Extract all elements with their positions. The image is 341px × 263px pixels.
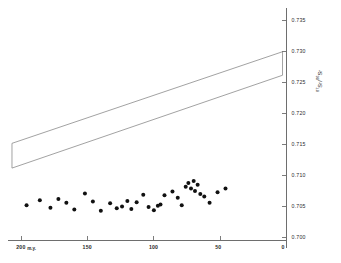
data-point [72,208,76,212]
data-point [125,199,129,203]
data-point [25,203,29,207]
y-axis-title-numerator-mass: 87 [315,88,320,92]
data-point [48,206,52,210]
data-point [38,198,42,202]
x-axis-ticks [21,236,286,241]
y-axis-tick-label: 0.735 [292,18,306,23]
data-point [129,207,133,211]
y-axis-tick-label: 0.705 [292,204,306,209]
data-point [224,187,228,191]
data-points [25,179,228,213]
y-axis-title-denominator: Sr [317,70,323,76]
sr-isotope-scatter-figure: 0.7000.7050.7100.7150.7200.7250.7300.735… [0,0,341,263]
data-point [56,197,60,201]
data-point [176,196,180,200]
y-axis-tick-label: 0.710 [292,173,306,178]
data-point [91,200,95,204]
x-axis-tick-label: 50 [215,245,221,250]
data-point [120,204,124,208]
data-point [193,189,197,193]
data-point [64,201,68,205]
mantle-evolution-band [12,52,283,168]
data-point [115,206,119,210]
axes [8,8,287,248]
x-axis-tick-label: 100 [149,245,158,250]
data-point [141,193,145,197]
x-axis-unit-label: m.y. [27,247,36,252]
y-axis-tick-label: 0.720 [292,111,306,116]
data-point [192,179,196,183]
data-point [180,203,184,207]
y-axis-title-denominator-mass: 86 [315,76,320,80]
y-axis-tick-label: 0.725 [292,80,306,85]
data-point [147,205,151,209]
data-point [216,190,220,194]
data-point [202,195,206,199]
y-axis-tick-label: 0.730 [292,49,306,54]
data-point [196,183,200,187]
x-axis-tick-label: 0 [282,245,285,250]
data-point [159,203,163,207]
y-axis-tick-label: 0.700 [292,235,306,240]
data-point [152,208,156,212]
band-outline [12,52,283,168]
data-point [83,191,87,195]
y-axis-title-numerator: Sr [317,82,323,88]
y-axis-title: 87Sr/86Sr [318,32,324,92]
data-point [135,200,139,204]
data-point [198,192,202,196]
x-axis-tick-label: 150 [83,245,92,250]
data-point [208,201,212,205]
data-point [184,185,188,189]
data-point [108,201,112,205]
data-point [170,190,174,194]
data-point [99,209,103,213]
y-axis-title-slash: / [317,80,323,82]
x-axis-tick-label: 200 [16,245,25,250]
data-point [189,187,193,191]
data-point [186,181,190,185]
y-axis-tick-label: 0.715 [292,142,306,147]
data-point [162,193,166,197]
plot-canvas [0,0,341,263]
